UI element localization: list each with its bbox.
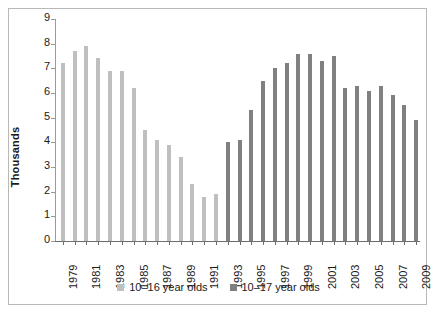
bar [108, 71, 112, 241]
x-tick-mark [181, 241, 182, 245]
legend-label: 10–17 year olds [242, 281, 320, 293]
legend-entry[interactable]: 10–17 year olds [230, 281, 320, 293]
bar [343, 88, 347, 241]
bar [355, 86, 359, 241]
x-tick-mark [75, 241, 76, 245]
x-tick-mark [98, 241, 99, 245]
x-tick-mark [122, 241, 123, 245]
bar [391, 95, 395, 241]
x-tick-mark [298, 241, 299, 245]
chart-legend: 10–16 year olds10–17 year olds [9, 281, 428, 293]
x-tick-mark [345, 241, 346, 245]
y-tick-label: 1 [30, 208, 50, 220]
x-tick-mark [404, 241, 405, 245]
chart-frame: Thousands 9876543210 1979198119831985198… [8, 8, 427, 305]
x-tick-mark [204, 241, 205, 245]
bar [320, 61, 324, 241]
bar [414, 120, 418, 241]
bar [238, 140, 242, 241]
x-tick-mark [263, 241, 264, 245]
y-tick-label: 9 [30, 11, 50, 23]
x-tick-mark [240, 241, 241, 245]
x-tick-mark [416, 241, 417, 245]
bar [202, 197, 206, 241]
x-tick-mark [251, 241, 252, 245]
bar [132, 88, 136, 241]
x-tick-mark [228, 241, 229, 245]
bar [273, 68, 277, 241]
y-tick-label: 2 [30, 184, 50, 196]
x-tick-mark [275, 241, 276, 245]
bar [155, 140, 159, 241]
bar [379, 86, 383, 241]
y-axis-title: Thousands [9, 97, 21, 217]
bar [214, 194, 218, 241]
x-tick-mark [216, 241, 217, 245]
y-tick-label: 0 [30, 233, 50, 245]
bar [402, 105, 406, 241]
x-tick-mark [287, 241, 288, 245]
bar [73, 51, 77, 241]
bar [367, 91, 371, 241]
bar [167, 145, 171, 241]
y-tick-label: 8 [30, 36, 50, 48]
x-tick-mark [357, 241, 358, 245]
bar [296, 54, 300, 241]
bar [249, 110, 253, 241]
x-tick-mark [110, 241, 111, 245]
bar [84, 46, 88, 241]
bars-layer [55, 19, 420, 241]
plot-area: 9876543210 19791981198319851987198919911… [55, 19, 420, 241]
x-tick-mark [381, 241, 382, 245]
y-tick-label: 5 [30, 110, 50, 122]
y-tick-label: 6 [30, 85, 50, 97]
x-tick-mark [157, 241, 158, 245]
y-tick-label: 7 [30, 60, 50, 72]
y-tick-label: 3 [30, 159, 50, 171]
x-tick-mark [322, 241, 323, 245]
x-tick-mark [169, 241, 170, 245]
bar [261, 81, 265, 241]
bar [308, 54, 312, 241]
bar [332, 56, 336, 241]
bar [226, 142, 230, 241]
y-tick-label: 4 [30, 134, 50, 146]
x-tick-mark [334, 241, 335, 245]
bar [285, 63, 289, 241]
x-tick-mark [393, 241, 394, 245]
legend-entry[interactable]: 10–16 year olds [117, 281, 207, 293]
x-tick-mark [145, 241, 146, 245]
bar [61, 63, 65, 241]
x-tick-mark [310, 241, 311, 245]
bar [120, 71, 124, 241]
bar [143, 130, 147, 241]
x-axis-ticks [55, 241, 420, 246]
legend-swatch-icon [230, 284, 237, 291]
x-tick-mark [369, 241, 370, 245]
x-tick-mark [86, 241, 87, 245]
legend-label: 10–16 year olds [129, 281, 207, 293]
bar [179, 157, 183, 241]
x-tick-mark [63, 241, 64, 245]
x-tick-mark [134, 241, 135, 245]
x-tick-mark [192, 241, 193, 245]
bar [96, 58, 100, 241]
bar [190, 184, 194, 241]
legend-swatch-icon [117, 284, 124, 291]
